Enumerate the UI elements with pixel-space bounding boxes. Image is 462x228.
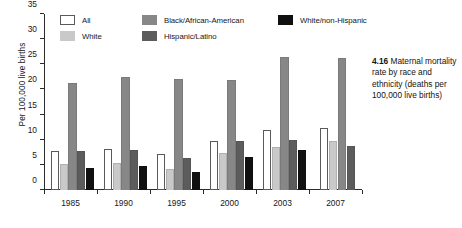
- x-tick: [309, 190, 310, 194]
- bar: [320, 128, 328, 190]
- figure-caption: 4.16 Maternal mortality rate by race and…: [372, 56, 458, 102]
- bar: [210, 141, 218, 190]
- x-tick: [44, 190, 45, 194]
- x-tick-label: 1985: [61, 198, 80, 208]
- y-axis-line: [44, 14, 45, 190]
- bar: [219, 153, 227, 190]
- bar-group: [210, 80, 253, 190]
- bar: [113, 163, 121, 190]
- legend-row: WhiteHispanic/Latino: [60, 28, 360, 44]
- legend-item-label: White: [82, 32, 102, 41]
- y-tick: [40, 164, 44, 165]
- y-tick-label: 0: [32, 175, 37, 185]
- legend-item[interactable]: Black/African-American: [142, 15, 244, 25]
- figure-maternal-mortality-chart: Per 100,000 live births 05101520253035 1…: [0, 0, 462, 228]
- bar: [130, 150, 138, 190]
- bar: [272, 147, 280, 190]
- bar-group: [51, 83, 94, 190]
- bar: [298, 150, 306, 190]
- bar: [68, 83, 76, 190]
- bar: [60, 164, 68, 190]
- bar: [77, 151, 85, 190]
- bar: [347, 146, 355, 190]
- bar: [174, 79, 182, 190]
- legend-item[interactable]: White/non-Hispanic: [278, 15, 367, 25]
- figure-caption-number: 4.16: [372, 56, 388, 66]
- bar: [121, 77, 129, 190]
- x-tick: [97, 190, 98, 194]
- legend-item[interactable]: White: [60, 31, 102, 41]
- y-tick-label: 35: [28, 0, 37, 9]
- x-tick-label: 2000: [220, 198, 239, 208]
- legend-item-label: White/non-Hispanic: [300, 16, 367, 25]
- bar-group: [157, 79, 200, 190]
- x-tick-label: 1995: [167, 198, 186, 208]
- x-tick-label: 2003: [273, 198, 292, 208]
- bar: [139, 166, 147, 190]
- bar: [280, 57, 288, 190]
- y-tick-label: 25: [28, 49, 37, 59]
- y-tick: [40, 13, 44, 14]
- y-axis-title: Per 100,000 live births: [18, 5, 27, 165]
- y-tick: [40, 88, 44, 89]
- x-tick: [203, 190, 204, 194]
- bar: [157, 154, 165, 190]
- legend-item-label: Hispanic/Latino: [164, 32, 217, 41]
- bar: [245, 157, 253, 190]
- bar: [86, 168, 94, 190]
- bar: [192, 172, 200, 190]
- bar: [183, 158, 191, 190]
- y-tick-label: 5: [32, 150, 37, 160]
- legend-swatch-hispanic-icon: [142, 31, 157, 41]
- legend-swatch-black-icon: [142, 15, 157, 25]
- bar: [236, 141, 244, 190]
- legend-row: AllBlack/African-AmericanWhite/non-Hispa…: [60, 12, 360, 28]
- legend-swatch-all-icon: [60, 15, 75, 25]
- x-tick: [256, 190, 257, 194]
- legend-item[interactable]: Hispanic/Latino: [142, 31, 217, 41]
- y-tick-label: 20: [28, 74, 37, 84]
- y-tick: [40, 114, 44, 115]
- legend-swatch-white-non-hispanic-icon: [278, 15, 293, 25]
- y-tick-label: 15: [28, 100, 37, 110]
- y-tick: [40, 139, 44, 140]
- bar-group: [104, 77, 147, 190]
- x-tick: [362, 190, 363, 194]
- y-tick: [40, 63, 44, 64]
- bar-group: [320, 58, 355, 190]
- y-tick-label: 10: [28, 125, 37, 135]
- legend-item[interactable]: All: [60, 15, 91, 25]
- bar: [104, 149, 112, 190]
- bar: [263, 130, 271, 190]
- x-tick: [150, 190, 151, 194]
- x-tick-label: 2007: [326, 198, 345, 208]
- legend-swatch-white-icon: [60, 31, 75, 41]
- bar: [338, 58, 346, 190]
- bar: [166, 169, 174, 190]
- y-tick-label: 30: [28, 24, 37, 34]
- bar-group: [263, 57, 306, 190]
- bar: [289, 140, 297, 190]
- y-tick: [40, 38, 44, 39]
- legend-item-label: All: [82, 16, 91, 25]
- x-tick-label: 1990: [114, 198, 133, 208]
- bar: [329, 141, 337, 190]
- legend-item-label: Black/African-American: [164, 16, 244, 25]
- bar: [227, 80, 235, 190]
- chart-legend: AllBlack/African-AmericanWhite/non-Hispa…: [60, 12, 360, 44]
- bar: [51, 151, 59, 190]
